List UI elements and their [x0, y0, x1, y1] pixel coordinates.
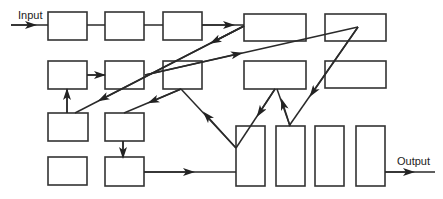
block-b10 — [325, 61, 386, 88]
block-b1 — [48, 12, 87, 40]
block-t2 — [276, 126, 305, 186]
block-diagram: Input Output — [0, 0, 443, 199]
block-t3 — [315, 126, 344, 186]
block-b6 — [48, 61, 87, 89]
output-label: Output — [397, 155, 430, 167]
block-t1 — [236, 126, 265, 186]
block-b3 — [163, 12, 202, 40]
block-b2 — [105, 12, 144, 40]
block-b12 — [105, 113, 144, 141]
block-b14 — [105, 157, 144, 186]
block-b4 — [244, 14, 306, 41]
block-b7 — [105, 61, 144, 89]
block-b11 — [48, 113, 88, 141]
block-t4 — [356, 126, 385, 186]
input-label: Input — [18, 9, 42, 21]
block-b13 — [48, 157, 87, 185]
block-b9 — [244, 61, 306, 89]
